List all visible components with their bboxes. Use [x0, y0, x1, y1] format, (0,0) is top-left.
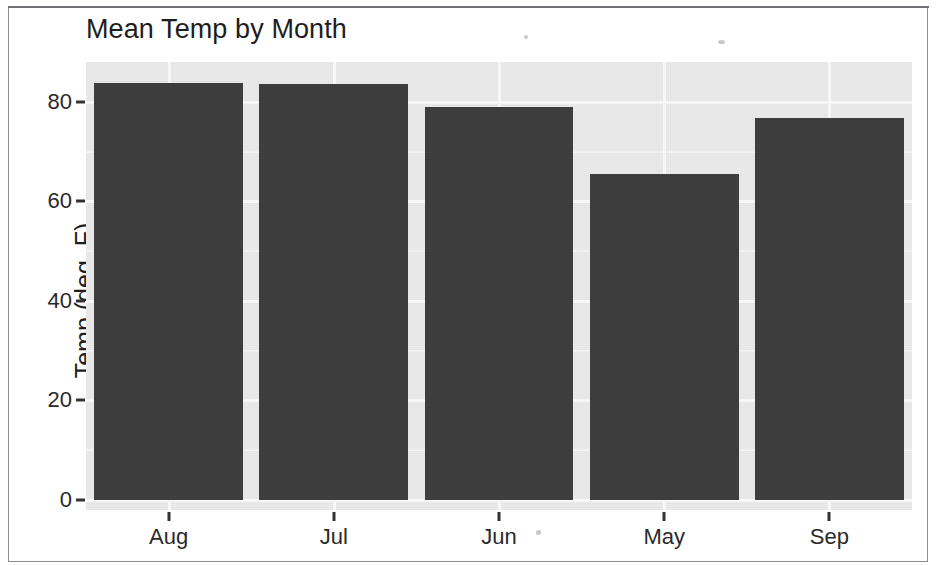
- scan-speckle: [718, 40, 725, 44]
- chart-title: Mean Temp by Month: [86, 14, 347, 45]
- x-tick-mark: [828, 512, 831, 521]
- x-tick-mark: [332, 512, 335, 521]
- plot-panel: [86, 62, 912, 510]
- y-tick-label: 0: [60, 487, 72, 513]
- x-tick-label-aug: Aug: [149, 524, 188, 550]
- scan-speckle: [536, 530, 541, 535]
- x-tick-label-jul: Jul: [320, 524, 348, 550]
- y-tick-mark: [76, 499, 85, 502]
- y-tick-mark: [76, 200, 85, 203]
- y-tick-mark: [76, 100, 85, 103]
- bar-jun: [425, 107, 574, 500]
- y-tick-label: 20: [48, 387, 72, 413]
- y-tick-mark: [76, 299, 85, 302]
- chart-page: Mean Temp by Month Temp (deg. F) 0204060…: [0, 0, 936, 565]
- bar-aug: [94, 83, 243, 500]
- y-tick-label: 60: [48, 188, 72, 214]
- y-tick-label: 40: [48, 288, 72, 314]
- bar-jul: [259, 84, 408, 500]
- scan-speckle: [524, 35, 528, 39]
- y-tick-label: 80: [48, 89, 72, 115]
- x-tick-mark: [663, 512, 666, 521]
- bar-may: [590, 174, 739, 500]
- x-tick-mark: [498, 512, 501, 521]
- x-tick-label-jun: Jun: [481, 524, 516, 550]
- x-tick-mark: [167, 512, 170, 521]
- x-tick-label-sep: Sep: [810, 524, 849, 550]
- y-axis-tick-labels: 020406080: [0, 62, 72, 510]
- bar-chart-figure: Mean Temp by Month Temp (deg. F) 0204060…: [0, 0, 936, 565]
- bar-sep: [755, 118, 904, 500]
- y-tick-mark: [76, 399, 85, 402]
- x-tick-label-may: May: [643, 524, 685, 550]
